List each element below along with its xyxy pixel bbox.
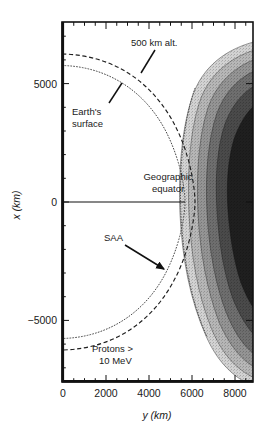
annotation-geographic-equator-line2: equator [152,183,184,194]
annotation-saa: SAA [104,232,124,243]
figure-container: 500 km alt. Earth's surface Geographic e… [0,0,270,434]
x-tick-label-6000: 6000 [180,387,204,399]
y-axis-title: x (km) [10,190,22,220]
y-tick-label-0: 0 [51,196,57,208]
annotation-earth-surface-line2: surface [72,118,103,129]
x-tick-label-2000: 2000 [94,387,118,399]
y-tick-label-minus5000: −5000 [28,314,58,326]
y-tick-label-5000: 5000 [34,78,58,90]
annotation-500km-alt: 500 km alt. [131,37,177,48]
x-axis-title: y (km) [141,409,171,421]
annotation-geographic-equator-line1: Geographic [143,171,192,182]
annotation-protons-line2: 10 MeV [99,355,132,366]
x-tick-label-8000: 8000 [223,387,247,399]
annotation-protons-line1: Protons > [92,343,133,354]
annotation-earth-surface-line1: Earth's [72,106,102,117]
saa-proton-flux-plot: 500 km alt. Earth's surface Geographic e… [0,0,270,434]
x-tick-label-0: 0 [60,387,66,399]
x-tick-label-4000: 4000 [137,387,161,399]
